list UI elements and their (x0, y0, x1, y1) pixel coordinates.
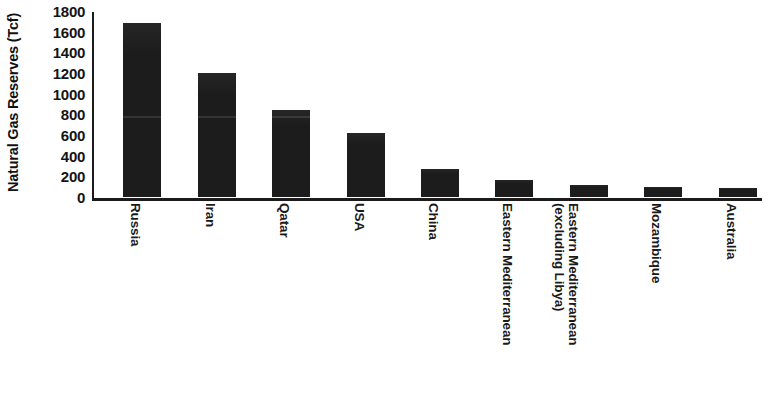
x-axis-label-slot: Russia (122, 203, 162, 399)
x-axis-label-slot: China (420, 203, 460, 399)
bar (421, 169, 459, 197)
x-axis-label-slot: Iran (197, 203, 237, 399)
y-axis-tick-label: 1800 (27, 4, 85, 19)
y-axis-tick-label: 1200 (27, 66, 85, 81)
bar (719, 188, 757, 197)
x-axis-category-labels: RussiaIranQatarUSAChinaEastern Mediterra… (92, 203, 762, 399)
bar (123, 23, 161, 197)
x-axis-category-label-line: Russia (128, 203, 143, 246)
x-axis-label-slot: Eastern Mediterranean(excluding Libya) (569, 203, 609, 399)
x-axis-category-label: USA (351, 203, 365, 231)
y-axis-tick-label: 600 (27, 128, 85, 143)
plot-area (92, 12, 762, 200)
bar-scan-seam (123, 116, 161, 118)
x-axis-category-label-line: Eastern Mediterranean (566, 203, 581, 345)
bar (198, 73, 236, 197)
y-axis-tick-label: 0 (27, 190, 85, 205)
x-axis-category-label-line: Australia (724, 203, 739, 259)
bar (272, 110, 310, 197)
bar-scan-seam (272, 116, 310, 118)
x-axis-category-label: Mozambique (649, 203, 663, 283)
x-axis-category-label: Australia (723, 203, 737, 259)
x-axis-label-slot: Qatar (271, 203, 311, 399)
x-axis-category-label-line: Mozambique (649, 203, 664, 283)
bar-chart: Natural Gas Reserves (Tcf) 1800160014001… (0, 0, 780, 401)
x-axis-label-slot: Australia (718, 203, 758, 399)
x-axis-category-label: Eastern Mediterranean(excluding Libya) (551, 203, 580, 345)
y-axis-line (92, 12, 94, 200)
x-axis-category-label-line: (excluding Libya) (551, 203, 565, 345)
bar (644, 187, 682, 197)
y-axis-tick-label: 800 (27, 107, 85, 122)
bar (495, 180, 533, 197)
x-axis-label-slot: Mozambique (643, 203, 683, 399)
bar (570, 185, 608, 197)
x-axis-category-label: Eastern Mediterranean (500, 203, 514, 345)
x-axis-category-label: Russia (128, 203, 142, 246)
y-axis-tick-label: 1400 (27, 45, 85, 60)
bar (347, 133, 385, 197)
x-axis-category-label-line: Qatar (277, 203, 292, 238)
x-axis-label-slot: Eastern Mediterranean (494, 203, 534, 399)
y-axis-tick-label: 1600 (27, 25, 85, 40)
bar-scan-seam (198, 116, 236, 118)
x-axis-category-label-line: USA (352, 203, 367, 231)
y-axis-tick-labels: 180016001400120010008006004002000 (26, 0, 89, 206)
y-axis-tick-label: 1000 (27, 87, 85, 102)
x-axis-category-label: China (426, 203, 440, 240)
x-axis-category-label-line: Iran (203, 203, 218, 227)
y-axis-title-wrapper: Natural Gas Reserves (Tcf) (0, 0, 26, 205)
x-axis-category-label: Iran (202, 203, 216, 227)
y-axis-title: Natural Gas Reserves (Tcf) (0, 0, 26, 205)
x-axis-category-label-line: China (426, 203, 441, 240)
y-axis-tick-label: 200 (27, 169, 85, 184)
y-axis-tick-label: 400 (27, 149, 85, 164)
x-axis-category-label-line: Eastern Mediterranean (500, 203, 515, 345)
x-axis-line (92, 198, 762, 201)
x-axis-category-label: Qatar (277, 203, 291, 238)
x-axis-label-slot: USA (346, 203, 386, 399)
